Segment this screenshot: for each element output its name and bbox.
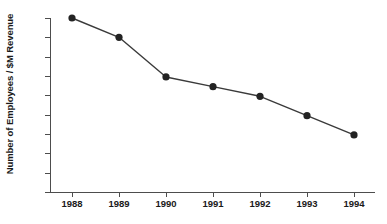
data-point: [350, 131, 357, 138]
data-point: [68, 14, 75, 21]
data-point: [115, 34, 122, 41]
data-point: [303, 112, 310, 119]
data-point: [256, 93, 263, 100]
data-point: [162, 73, 169, 80]
series-line: [72, 18, 354, 135]
line-chart: Number of Employees / $M Revenue 44.24.4…: [0, 0, 387, 224]
data-point: [209, 83, 216, 90]
data-series: [0, 0, 387, 224]
series-markers: [68, 14, 357, 138]
